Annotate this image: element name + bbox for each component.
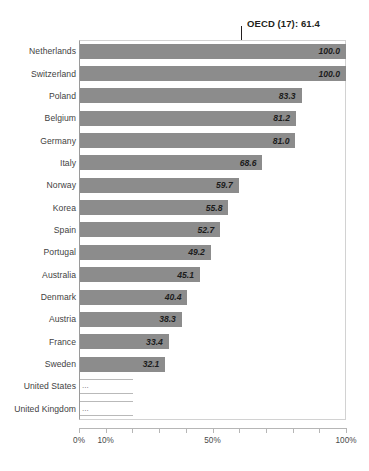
category-label: Germany	[0, 136, 76, 146]
bar-track: ...	[80, 375, 346, 397]
bar-row: Norway59.7	[0, 174, 369, 196]
bar-value-label: 32.1	[143, 359, 166, 369]
x-axis-tick	[346, 428, 347, 433]
bar-row: Denmark40.4	[0, 286, 369, 308]
bar-track: 55.8	[80, 196, 346, 218]
x-axis-tick	[106, 428, 107, 433]
bar: 52.7	[80, 222, 220, 237]
bar-row: Italy68.6	[0, 152, 369, 174]
bar-value-label: 83.3	[279, 91, 302, 101]
category-label: Portugal	[0, 247, 76, 257]
bar-track: 32.1	[80, 353, 346, 375]
category-label: Austria	[0, 314, 76, 324]
bar-value-label: ...	[80, 406, 89, 412]
category-label: Denmark	[0, 292, 76, 302]
bar-value-label: 49.2	[188, 247, 211, 257]
category-label: Spain	[0, 225, 76, 235]
bar-row: Korea55.8	[0, 196, 369, 218]
category-label: Australia	[0, 270, 76, 280]
bar-chart: OECD (17): 61.4 Netherlands100.0Switzerl…	[0, 0, 369, 471]
category-label: Korea	[0, 203, 76, 213]
x-axis-tick	[213, 428, 214, 433]
bar-track: 59.7	[80, 174, 346, 196]
bar-row: Austria38.3	[0, 308, 369, 330]
category-label: Norway	[0, 180, 76, 190]
category-label: Sweden	[0, 359, 76, 369]
bar: 40.4	[80, 290, 187, 305]
bar-value-label: 52.7	[197, 225, 220, 235]
bar-track: 83.3	[80, 85, 346, 107]
bar: ...	[80, 379, 133, 394]
category-label: Poland	[0, 91, 76, 101]
category-label: Italy	[0, 158, 76, 168]
bar-track: 33.4	[80, 331, 346, 353]
bar-row: United States...	[0, 375, 369, 397]
bar-value-label: 40.4	[165, 292, 188, 302]
bar-track: 81.0	[80, 129, 346, 151]
bar-track: 45.1	[80, 264, 346, 286]
bar-value-label: 59.7	[216, 180, 239, 190]
x-axis-tick	[319, 428, 320, 433]
x-axis-tick	[239, 428, 240, 433]
bar-row: Spain52.7	[0, 219, 369, 241]
category-label: United States	[0, 381, 76, 391]
bar: 83.3	[80, 88, 302, 103]
bar: 45.1	[80, 267, 200, 282]
bar: 49.2	[80, 245, 211, 260]
x-axis-tick	[293, 428, 294, 433]
bar-row: Belgium81.2	[0, 107, 369, 129]
bar-track: 40.4	[80, 286, 346, 308]
x-axis-tick-label: 0%	[73, 436, 85, 445]
x-axis-tick-label: 10%	[97, 436, 113, 445]
bar-row: France33.4	[0, 331, 369, 353]
bar-track: 100.0	[80, 62, 346, 84]
bar: 100.0	[80, 44, 346, 59]
bar-track: ...	[80, 398, 346, 420]
bar-value-label: 100.0	[318, 46, 346, 56]
bar-value-label: ...	[80, 383, 89, 389]
x-axis-tick	[132, 428, 133, 433]
bar-track: 52.7	[80, 219, 346, 241]
reference-line-label: OECD (17): 61.4	[247, 18, 320, 29]
x-axis-tick-label: 100%	[336, 436, 357, 445]
category-label: United Kingdom	[0, 404, 76, 414]
bar: 68.6	[80, 155, 262, 170]
category-label: Belgium	[0, 113, 76, 123]
bar-rows: Netherlands100.0Switzerland100.0Poland83…	[0, 40, 369, 420]
bar: 55.8	[80, 200, 228, 215]
bar-track: 68.6	[80, 152, 346, 174]
bar: 81.2	[80, 111, 296, 126]
bar-row: Australia45.1	[0, 264, 369, 286]
bar-track: 81.2	[80, 107, 346, 129]
bar-value-label: 81.2	[273, 113, 296, 123]
x-axis-tick	[266, 428, 267, 433]
bar-row: Portugal49.2	[0, 241, 369, 263]
x-axis-tick-label: 50%	[204, 436, 220, 445]
bar-value-label: 45.1	[177, 270, 200, 280]
bar-value-label: 68.6	[240, 158, 263, 168]
bar-row: United Kingdom...	[0, 398, 369, 420]
bar-value-label: 33.4	[146, 337, 169, 347]
bar-track: 38.3	[80, 308, 346, 330]
x-axis-tick	[79, 428, 80, 433]
bar: 100.0	[80, 66, 346, 81]
x-axis-tick	[159, 428, 160, 433]
bar-row: Netherlands100.0	[0, 40, 369, 62]
bar-value-label: 81.0	[273, 136, 296, 146]
category-label: France	[0, 337, 76, 347]
x-axis-tick	[186, 428, 187, 433]
bar-row: Germany81.0	[0, 129, 369, 151]
bar-value-label: 55.8	[206, 203, 229, 213]
bar: 81.0	[80, 133, 295, 148]
bar-row: Sweden32.1	[0, 353, 369, 375]
bar: 38.3	[80, 312, 182, 327]
bar-track: 49.2	[80, 241, 346, 263]
bar: 33.4	[80, 334, 169, 349]
category-label: Switzerland	[0, 69, 76, 79]
bar-track: 100.0	[80, 40, 346, 62]
bar-row: Switzerland100.0	[0, 62, 369, 84]
bar-row: Poland83.3	[0, 85, 369, 107]
bar: ...	[80, 401, 133, 416]
bar-value-label: 100.0	[318, 69, 346, 79]
bar: 59.7	[80, 178, 239, 193]
